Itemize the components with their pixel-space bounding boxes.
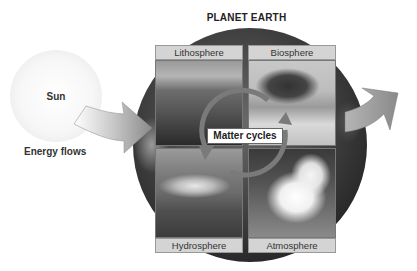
cycle-arrowhead-left-icon [199, 146, 214, 160]
cycle-arrowhead-right-icon [278, 112, 292, 125]
energy-flows-label: Energy flows [24, 146, 86, 157]
matter-cycles-label: Matter cycles [207, 128, 283, 144]
